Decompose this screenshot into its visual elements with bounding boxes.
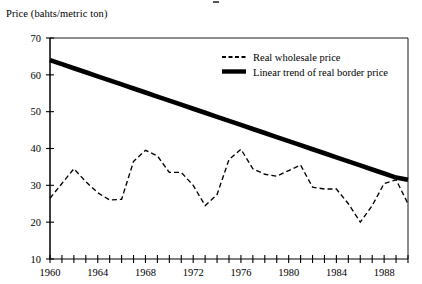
scan-artifact bbox=[213, 1, 219, 3]
x-tick-label: 1964 bbox=[87, 267, 109, 278]
series-real-wholesale-price bbox=[50, 149, 408, 222]
y-tick-label: 20 bbox=[31, 217, 42, 228]
x-tick-label: 1972 bbox=[183, 267, 204, 278]
x-tick-label: 1968 bbox=[135, 267, 156, 278]
x-tick-label: 1960 bbox=[40, 267, 61, 278]
series-linear-trend-border-price bbox=[50, 60, 408, 180]
plot-area-container: 10203040506070 1960196419681972197619801… bbox=[0, 0, 422, 284]
legend-label: Linear trend of real border price bbox=[253, 67, 388, 78]
x-tick-label: 1984 bbox=[326, 267, 348, 278]
y-tick-label: 10 bbox=[31, 254, 42, 265]
y-tick-label: 50 bbox=[31, 106, 42, 117]
x-tick-label: 1980 bbox=[278, 267, 299, 278]
data-series-group bbox=[50, 60, 408, 222]
x-tick-label: 1988 bbox=[374, 267, 395, 278]
y-tick-label: 30 bbox=[31, 180, 42, 191]
y-tick-label: 60 bbox=[31, 70, 42, 81]
x-tick-label: 1976 bbox=[230, 267, 251, 278]
y-tick-label: 40 bbox=[31, 143, 42, 154]
y-tick-label: 70 bbox=[31, 33, 42, 44]
legend-label: Real wholesale price bbox=[253, 52, 341, 63]
chart-figure: Price (bahts/metric ton) 10203040506070 … bbox=[0, 0, 422, 284]
chart-svg: 10203040506070 1960196419681972197619801… bbox=[0, 0, 422, 284]
chart-legend: Real wholesale priceLinear trend of real… bbox=[222, 52, 388, 78]
